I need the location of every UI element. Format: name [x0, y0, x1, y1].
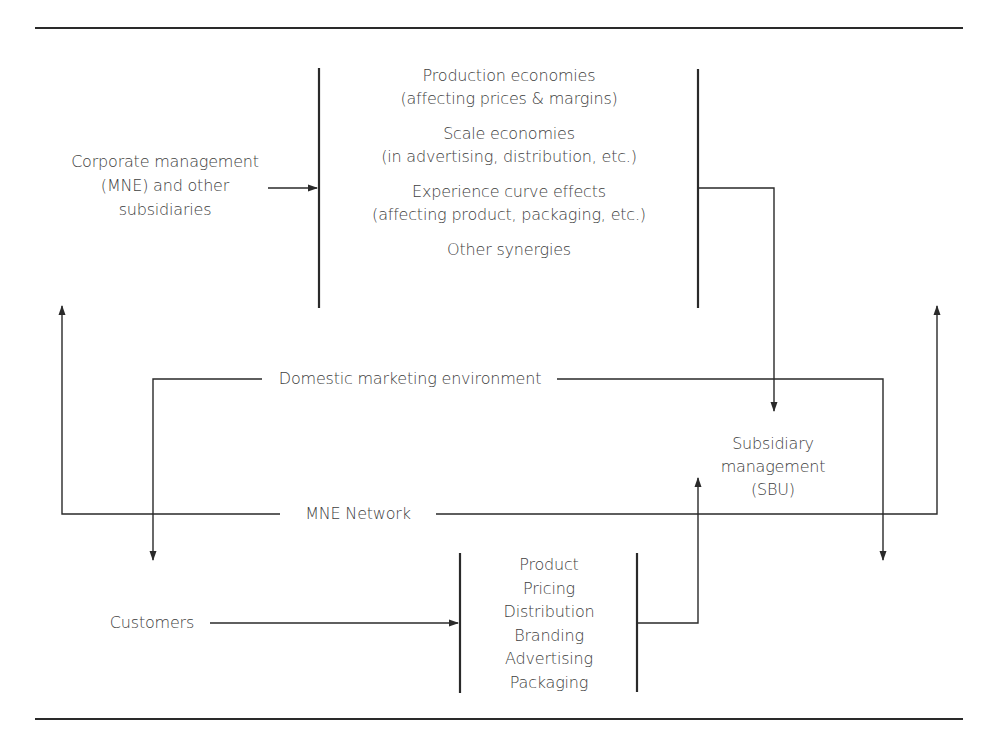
subsidiary-line-2: management: [700, 455, 846, 478]
marketing-mix-list: Product Pricing Distribution Branding Ad…: [463, 553, 635, 694]
mix-pricing: Pricing: [463, 577, 635, 601]
corporate-line-3: subsidiaries: [40, 198, 290, 222]
synergy-other-title: Other synergies: [325, 238, 693, 261]
mix-advertising: Advertising: [463, 647, 635, 671]
mix-to-subsidiary-arrow: [637, 478, 698, 623]
synergy-scale-title: Scale economies: [325, 122, 693, 145]
subsidiary-line-3: (SBU): [700, 478, 846, 501]
corporate-management-label: Corporate management (MNE) and other sub…: [40, 150, 290, 222]
domestic-environment-label: Domestic marketing environment: [270, 367, 550, 391]
subsidiary-management-label: Subsidiary management (SBU): [700, 432, 846, 501]
synergy-production-title: Production economies: [325, 64, 693, 87]
synergy-experience-detail: (affecting product, packaging, etc.): [325, 203, 693, 226]
mix-branding: Branding: [463, 624, 635, 648]
subsidiary-line-1: Subsidiary: [700, 432, 846, 455]
synergy-scale-detail: (in advertising, distribution, etc.): [325, 145, 693, 168]
mix-distribution: Distribution: [463, 600, 635, 624]
synergies-list: Production economies (affecting prices &…: [325, 64, 693, 261]
mix-product: Product: [463, 553, 635, 577]
domestic-env-left-arrow: [153, 379, 262, 560]
mne-network-left-arrow: [62, 306, 280, 514]
corporate-line-2: (MNE) and other: [40, 174, 290, 198]
synergies-to-subsidiary-arrow: [698, 188, 774, 411]
mne-network-label: MNE Network: [286, 502, 430, 526]
synergy-experience-title: Experience curve effects: [325, 180, 693, 203]
synergy-production-detail: (affecting prices & margins): [325, 87, 693, 110]
mne-network-right-arrow: [436, 306, 937, 514]
mix-packaging: Packaging: [463, 671, 635, 695]
corporate-line-1: Corporate management: [40, 150, 290, 174]
customers-label: Customers: [100, 611, 204, 635]
